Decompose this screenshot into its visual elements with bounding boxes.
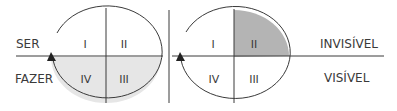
right-quadrant-iii: III [249, 74, 259, 85]
right-shaded-quadrant-ii [234, 10, 289, 57]
left-quadrant-i: I [83, 39, 86, 50]
left-quadrant-iii: III [119, 74, 129, 85]
right-label-visivel: VISÍVEL [324, 72, 369, 84]
right-quadrant-ii: II [251, 39, 258, 50]
left-label-fazer: FAZER [15, 73, 53, 85]
left-label-ser: SER [16, 38, 40, 50]
left-quadrant-iv: IV [81, 74, 92, 85]
right-label-invisivel: INVISÍVEL [320, 38, 378, 50]
right-quadrant-iv: IV [209, 74, 220, 85]
right-quadrant-i: I [211, 39, 214, 50]
diagram-canvas [0, 0, 397, 111]
left-quadrant-ii: II [121, 39, 128, 50]
